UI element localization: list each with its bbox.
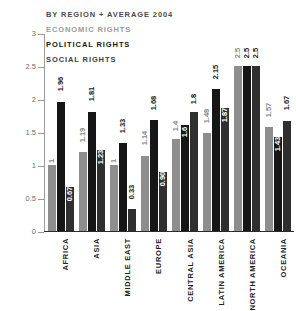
bar-value-label: 1.81: [88, 87, 96, 102]
y-axis-tick-label: 2.5: [4, 62, 36, 71]
x-axis-label-cell: ASIA: [76, 236, 107, 300]
bar-value-label: 1.6: [181, 127, 189, 137]
bar: 1.23: [97, 150, 105, 231]
y-axis-tick-label: 1: [4, 161, 36, 170]
bar-value-label: 1.68: [150, 95, 158, 110]
bar-group: 1.482.151.87: [201, 34, 232, 231]
bar: 1.8: [190, 112, 198, 231]
bar-value-label: 0.33: [128, 185, 136, 200]
bar-value-label: 1.87: [221, 107, 229, 122]
y-axis-tick-label: 2: [4, 95, 36, 104]
bar-value-label: 1.43: [274, 136, 282, 151]
bar: 1.68: [150, 120, 158, 231]
x-axis-labels: AFRICAASIAMIDDLE EASTEUROPECENTRAL ASIAL…: [45, 236, 295, 300]
bar: 1.87: [221, 108, 229, 231]
x-axis-label: AFRICA: [61, 238, 70, 271]
bar: 1.96: [57, 102, 65, 231]
y-axis-tick-label: 3: [4, 29, 36, 38]
bar: 2.5: [252, 66, 260, 231]
x-axis-label-cell: NORTH AMERICA: [233, 236, 264, 300]
bar-groups: 11.960.671.191.811.2311.330.331.141.680.…: [45, 34, 294, 231]
y-axis-tick: [38, 232, 44, 233]
y-axis-tick: [38, 100, 44, 101]
bar-group: 1.571.431.67: [263, 34, 294, 231]
bar-group: 1.191.811.23: [76, 34, 107, 231]
y-axis-tick-label: 0.5: [4, 194, 36, 203]
chart-title: BY REGION + AVERAGE 2004: [46, 10, 173, 19]
bar: 1.19: [79, 152, 87, 231]
bar: 1.48: [203, 133, 211, 231]
bar-value-label: 1.96: [57, 77, 65, 92]
bar-value-label: 1.14: [141, 131, 149, 146]
bar-value-label: 0.90: [159, 171, 167, 186]
x-axis-line: [44, 231, 294, 232]
bar: 1.4: [172, 139, 180, 231]
bar: 1.6: [181, 125, 189, 231]
bar-value-label: 1.33: [119, 119, 127, 134]
bar: 1: [48, 165, 56, 231]
x-axis-label-cell: AFRICA: [45, 236, 76, 300]
bar: 1.33: [119, 143, 127, 231]
bar: 1.81: [88, 112, 96, 231]
bar-value-label: 1.8: [190, 94, 198, 104]
bar-value-label: 2.5: [252, 48, 260, 58]
y-axis-tick-label: 1.5: [4, 128, 36, 137]
bar-value-label: 1.23: [97, 150, 105, 165]
x-axis-label: MIDDLE EAST: [123, 238, 132, 297]
bar: 0.33: [128, 209, 136, 231]
bar-value-label: 1.4: [172, 121, 180, 131]
x-axis-label: CENTRAL ASIA: [186, 238, 195, 302]
bar: 1.14: [141, 156, 149, 231]
y-axis-tick: [38, 34, 44, 35]
y-axis-tick: [38, 199, 44, 200]
bar-value-label: 1: [48, 159, 56, 163]
x-axis-label-cell: EUROPE: [139, 236, 170, 300]
x-axis-label: ASIA: [92, 238, 101, 259]
bar: 1.43: [274, 137, 282, 231]
y-axis-tick: [38, 67, 44, 68]
plot-area: 00.511.522.53 11.960.671.191.811.2311.33…: [44, 34, 294, 232]
chart-title-row: BY REGION + AVERAGE 2004: [46, 4, 246, 19]
legend-label-economic-rights: ECONOMIC RIGHTS: [46, 25, 131, 34]
bar: 2.5: [234, 66, 242, 231]
bar-group: 11.330.33: [107, 34, 138, 231]
x-axis-label: LATIN AMERICA: [217, 238, 226, 305]
x-axis-label-cell: OCEANIA: [264, 236, 295, 300]
bar-group: 11.960.67: [45, 34, 76, 231]
bar-value-label: 1.57: [265, 103, 273, 118]
y-axis-tick: [38, 166, 44, 167]
bar: 0.67: [66, 187, 74, 231]
bar-group: 1.141.680.90: [138, 34, 169, 231]
bar: 1.67: [283, 121, 291, 231]
bar-value-label: 1.48: [203, 109, 211, 124]
bar-group: 1.41.61.8: [170, 34, 201, 231]
bar-value-label: 2.15: [212, 64, 220, 79]
x-axis-label-cell: CENTRAL ASIA: [170, 236, 201, 300]
bar: 0.90: [159, 172, 167, 231]
bar-value-label: 1.67: [283, 96, 291, 111]
y-axis-tick: [38, 133, 44, 134]
x-axis-label: OCEANIA: [279, 238, 288, 278]
y-axis-tick-label: 0: [4, 227, 36, 236]
legend-item-economic-rights: ECONOMIC RIGHTS: [46, 19, 246, 34]
bar-value-label: 1: [110, 159, 118, 163]
bar: 2.15: [212, 89, 220, 231]
x-axis-label-cell: LATIN AMERICA: [201, 236, 232, 300]
bar: 1: [110, 165, 118, 231]
x-axis-label: EUROPE: [154, 238, 163, 274]
x-axis-label-cell: MIDDLE EAST: [108, 236, 139, 300]
bar-value-label: 1.19: [79, 128, 87, 143]
bar-value-label: 0.67: [66, 186, 74, 201]
bar-group: 2.52.52.5: [232, 34, 263, 231]
x-axis-label: NORTH AMERICA: [248, 238, 257, 311]
bar: 2.5: [243, 66, 251, 231]
